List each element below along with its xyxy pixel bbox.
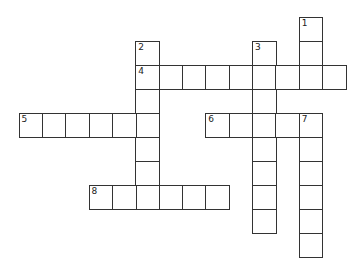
crossword-cell-r4-c11[interactable] [275, 113, 300, 138]
crossword-cell-r0-c12[interactable]: 1 [299, 17, 324, 42]
crossword-cell-r4-c5[interactable] [135, 113, 160, 138]
crossword-cell-r2-c12[interactable] [299, 65, 324, 90]
crossword-cell-r2-c10[interactable] [252, 65, 277, 90]
crossword-cell-r7-c8[interactable] [205, 185, 230, 210]
crossword-grid: 12435678 [0, 0, 360, 270]
clue-number: 8 [92, 187, 98, 196]
clue-number: 2 [138, 43, 144, 52]
crossword-cell-r1-c12[interactable] [299, 41, 324, 66]
crossword-cell-r2-c5[interactable]: 4 [135, 65, 160, 90]
crossword-cell-r4-c12[interactable]: 7 [299, 113, 324, 138]
crossword-cell-r8-c10[interactable] [252, 209, 277, 234]
crossword-cell-r7-c5[interactable] [135, 185, 160, 210]
clue-number: 7 [302, 115, 308, 124]
clue-number: 5 [22, 115, 28, 124]
crossword-cell-r5-c10[interactable] [252, 137, 277, 162]
crossword-cell-r7-c6[interactable] [159, 185, 184, 210]
crossword-cell-r4-c10[interactable] [252, 113, 277, 138]
crossword-cell-r6-c5[interactable] [135, 161, 160, 186]
crossword-cell-r2-c13[interactable] [322, 65, 347, 90]
crossword-cell-r5-c5[interactable] [135, 137, 160, 162]
crossword-cell-r8-c12[interactable] [299, 209, 324, 234]
crossword-cell-r2-c9[interactable] [229, 65, 254, 90]
clue-number: 1 [302, 19, 308, 28]
crossword-cell-r7-c3[interactable]: 8 [89, 185, 114, 210]
clue-number: 4 [138, 67, 144, 76]
crossword-cell-r1-c5[interactable]: 2 [135, 41, 160, 66]
crossword-cell-r4-c4[interactable] [112, 113, 137, 138]
crossword-cell-r4-c9[interactable] [229, 113, 254, 138]
crossword-cell-r5-c12[interactable] [299, 137, 324, 162]
crossword-cell-r4-c3[interactable] [89, 113, 114, 138]
crossword-cell-r4-c2[interactable] [65, 113, 90, 138]
crossword-cell-r2-c8[interactable] [205, 65, 230, 90]
crossword-cell-r2-c11[interactable] [275, 65, 300, 90]
crossword-cell-r2-c7[interactable] [182, 65, 207, 90]
crossword-cell-r7-c4[interactable] [112, 185, 137, 210]
crossword-cell-r4-c1[interactable] [42, 113, 67, 138]
clue-number: 6 [208, 115, 214, 124]
crossword-cell-r7-c7[interactable] [182, 185, 207, 210]
crossword-cell-r4-c8[interactable]: 6 [205, 113, 230, 138]
crossword-cell-r3-c5[interactable] [135, 89, 160, 114]
crossword-cell-r7-c10[interactable] [252, 185, 277, 210]
clue-number: 3 [255, 43, 261, 52]
crossword-cell-r9-c12[interactable] [299, 233, 324, 258]
crossword-cell-r6-c12[interactable] [299, 161, 324, 186]
crossword-cell-r3-c10[interactable] [252, 89, 277, 114]
crossword-cell-r2-c6[interactable] [159, 65, 184, 90]
crossword-cell-r1-c10[interactable]: 3 [252, 41, 277, 66]
crossword-cell-r7-c12[interactable] [299, 185, 324, 210]
crossword-cell-r4-c0[interactable]: 5 [19, 113, 44, 138]
crossword-cell-r6-c10[interactable] [252, 161, 277, 186]
